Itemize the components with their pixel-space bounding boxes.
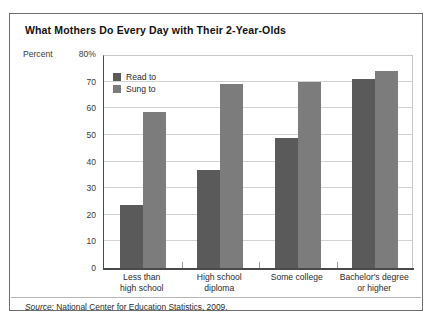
y-axis-tick-0: 0 (70, 264, 96, 273)
bar-sung-to-0 (143, 112, 166, 268)
bar-read-to-3 (352, 79, 375, 268)
y-axis-tick-50: 50 (70, 131, 96, 140)
chart-legend: Read to Sung to (113, 72, 156, 96)
source-divider (11, 297, 421, 298)
y-axis-tick-40: 40 (70, 158, 96, 167)
y-axis-tick-80: 80% (70, 49, 96, 59)
bar-sung-to-1 (220, 84, 243, 268)
y-axis-tick-30: 30 (70, 184, 96, 193)
y-axis-tick-60: 60 (70, 104, 96, 113)
legend-label-read-to: Read to (126, 72, 156, 82)
bar-sung-to-2 (298, 82, 321, 268)
source-note: Source: National Center for Education St… (25, 302, 228, 312)
x-axis-category-label-3-line-0: Bachelor's degree (328, 272, 422, 283)
chart-title: What Mothers Do Every Day with Their 2-Y… (25, 24, 286, 36)
bar-read-to-2 (275, 138, 298, 268)
x-axis-category-label-1-line-1: diploma (173, 283, 267, 294)
bar-read-to-0 (120, 205, 143, 268)
chart-figure: What Mothers Do Every Day with Their 2-Y… (9, 13, 423, 311)
x-axis-line (103, 268, 414, 270)
y-axis-tick-10: 10 (70, 237, 96, 246)
legend-item-sung-to: Sung to (113, 84, 156, 94)
y-axis-title: Percent (23, 49, 53, 59)
legend-item-read-to: Read to (113, 72, 156, 82)
y-axis-tick-70: 70 (70, 78, 96, 87)
source-text: National Center for Education Statistics… (56, 302, 227, 312)
source-prefix: Source: (25, 302, 54, 312)
bar-sung-to-3 (375, 71, 398, 268)
legend-label-sung-to: Sung to (126, 84, 156, 94)
legend-swatch-sung-to (113, 85, 121, 93)
y-axis-tick-20: 20 (70, 211, 96, 220)
legend-swatch-read-to (113, 73, 121, 81)
bar-read-to-1 (197, 170, 220, 269)
x-axis-category-label-3: Bachelor's degreeor higher (328, 272, 422, 293)
x-axis-category-label-3-line-1: or higher (328, 283, 422, 294)
